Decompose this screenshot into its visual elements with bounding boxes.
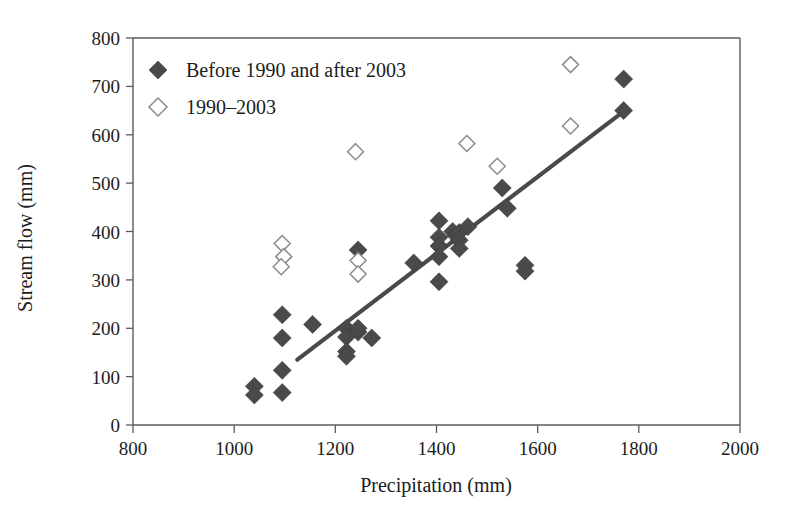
data-point-open-diamond bbox=[350, 266, 366, 282]
data-point-filled-diamond bbox=[273, 306, 291, 324]
data-point-filled-diamond bbox=[430, 248, 448, 266]
y-tick-label: 100 bbox=[92, 367, 121, 388]
data-point-open-diamond bbox=[489, 158, 505, 174]
y-tick-label: 600 bbox=[92, 125, 121, 146]
x-tick-label: 800 bbox=[119, 438, 148, 459]
y-tick-label: 300 bbox=[92, 270, 121, 291]
x-axis-ticks bbox=[133, 425, 740, 433]
x-tick-label: 1600 bbox=[519, 438, 557, 459]
x-tick-label: 1000 bbox=[215, 438, 253, 459]
x-tick-label: 2000 bbox=[721, 438, 759, 459]
legend-label: 1990–2003 bbox=[186, 96, 276, 118]
legend-label: Before 1990 and after 2003 bbox=[186, 59, 406, 81]
scatter-plot-figure: 0 100 200 300 400 500 600 700 800 800 10… bbox=[0, 0, 795, 510]
data-point-open-diamond bbox=[459, 135, 475, 151]
x-tick-label: 1200 bbox=[316, 438, 354, 459]
data-point-filled-diamond bbox=[273, 329, 291, 347]
data-point-filled-diamond bbox=[430, 273, 448, 291]
open-diamond-icon bbox=[149, 98, 167, 116]
data-markers-group bbox=[245, 57, 632, 404]
y-axis-tick-labels: 0 100 200 300 400 500 600 700 800 bbox=[92, 28, 121, 436]
y-tick-label: 200 bbox=[92, 318, 121, 339]
legend-item-before-1990-after-2003[interactable]: Before 1990 and after 2003 bbox=[149, 59, 406, 81]
data-point-filled-diamond bbox=[273, 361, 291, 379]
x-axis-title: Precipitation (mm) bbox=[360, 474, 512, 497]
data-point-filled-diamond bbox=[615, 70, 633, 88]
data-point-open-diamond bbox=[563, 118, 579, 134]
y-tick-label: 700 bbox=[92, 76, 121, 97]
data-point-filled-diamond bbox=[304, 315, 322, 333]
data-point-filled-diamond bbox=[430, 212, 448, 230]
chart-canvas: 0 100 200 300 400 500 600 700 800 800 10… bbox=[0, 0, 795, 510]
data-point-filled-diamond bbox=[498, 199, 516, 217]
data-point-open-diamond bbox=[563, 57, 579, 73]
data-point-filled-diamond bbox=[273, 384, 291, 402]
y-tick-label: 400 bbox=[92, 222, 121, 243]
y-tick-label: 800 bbox=[92, 28, 121, 49]
x-tick-label: 1800 bbox=[620, 438, 658, 459]
data-point-filled-diamond bbox=[493, 179, 511, 197]
y-axis-ticks bbox=[126, 38, 133, 425]
x-tick-label: 1400 bbox=[418, 438, 456, 459]
filled-diamond-icon bbox=[149, 61, 167, 79]
legend-item-1990-2003[interactable]: 1990–2003 bbox=[149, 96, 276, 118]
y-tick-label: 0 bbox=[111, 415, 121, 436]
y-tick-label: 500 bbox=[92, 173, 121, 194]
legend: Before 1990 and after 2003 1990–2003 bbox=[149, 59, 406, 118]
y-axis-title: Stream flow (mm) bbox=[14, 164, 37, 312]
data-point-filled-diamond bbox=[405, 254, 423, 272]
x-axis-tick-labels: 800 1000 1200 1400 1600 1800 2000 bbox=[119, 438, 759, 459]
data-point-open-diamond bbox=[348, 144, 364, 160]
